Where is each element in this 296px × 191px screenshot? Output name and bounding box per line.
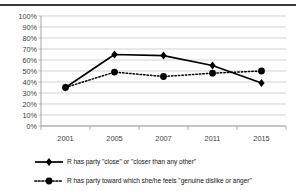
x-tick-label: 2001 <box>57 134 73 143</box>
y-tick-label: 90% <box>23 23 38 32</box>
data-point-marker <box>160 52 166 60</box>
legend-item-label: R has party toward which she/he feels "g… <box>67 177 252 185</box>
top-divider-rule <box>0 4 296 6</box>
y-tick-label: 20% <box>23 100 38 109</box>
x-axis-ticks <box>41 126 286 130</box>
y-tick-label: 40% <box>23 78 38 87</box>
chart-plot-area: 0%10%20%30%40%50%60%70%80%90%100% 200120… <box>0 8 296 154</box>
x-tick-label: 2015 <box>253 134 269 143</box>
data-point-marker <box>111 51 117 59</box>
chart-legend: R has party "close" or "closer than any … <box>0 152 296 191</box>
y-tick-label: 100% <box>19 12 38 21</box>
x-tick-label: 2005 <box>106 134 122 143</box>
x-axis-tick-labels: 20012005200720112015 <box>57 134 269 143</box>
y-axis-tick-labels: 0%10%20%30%40%50%60%70%80%90%100% <box>19 12 38 131</box>
data-point-marker <box>111 69 118 76</box>
legend-item-label: R has party "close" or "closer than any … <box>67 158 196 166</box>
data-point-marker <box>258 68 265 75</box>
y-tick-label: 0% <box>27 122 38 131</box>
data-point-marker <box>209 70 216 77</box>
circle-dotted-line-key-icon <box>34 174 64 188</box>
legend-item-close-party: R has party "close" or "closer than any … <box>0 152 296 171</box>
data-point-marker <box>160 73 167 80</box>
data-point-marker <box>258 79 264 87</box>
diamond-solid-line-key-icon <box>34 155 64 169</box>
y-tick-label: 30% <box>23 89 38 98</box>
x-tick-label: 2011 <box>205 134 221 143</box>
y-tick-label: 70% <box>23 45 38 54</box>
y-tick-label: 50% <box>23 67 38 76</box>
y-tick-label: 60% <box>23 56 38 65</box>
y-tick-label: 80% <box>23 34 38 43</box>
figure: 0%10%20%30%40%50%60%70%80%90%100% 200120… <box>0 0 296 191</box>
data-point-marker <box>209 62 215 70</box>
legend-item-dislike-party: R has party toward which she/he feels "g… <box>0 171 296 190</box>
x-tick-label: 2007 <box>155 134 171 143</box>
y-tick-label: 10% <box>23 111 38 120</box>
line-chart: 0%10%20%30%40%50%60%70%80%90%100% 200120… <box>0 8 296 154</box>
y-axis-line <box>39 16 42 126</box>
data-point-marker <box>62 84 69 91</box>
